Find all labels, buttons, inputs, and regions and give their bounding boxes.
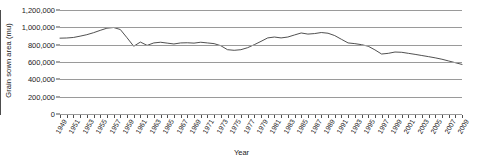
x-axis-tick bbox=[462, 115, 463, 118]
y-axis-tick bbox=[56, 62, 60, 63]
y-axis-tick-label: 1,200,000 bbox=[22, 6, 55, 15]
gridline bbox=[60, 97, 462, 98]
x-axis-tick bbox=[368, 115, 369, 118]
x-axis-tick bbox=[308, 115, 309, 118]
gridline bbox=[60, 62, 462, 63]
x-axis-tick bbox=[254, 115, 255, 118]
x-axis-tick bbox=[67, 115, 68, 118]
x-axis-tick bbox=[395, 115, 396, 118]
x-axis-tick bbox=[147, 115, 148, 118]
x-axis-tick bbox=[201, 115, 202, 118]
x-axis-tick bbox=[94, 115, 95, 118]
x-axis-tick bbox=[60, 115, 61, 118]
x-axis-tick bbox=[261, 115, 262, 118]
x-axis-tick bbox=[328, 115, 329, 118]
plot-area bbox=[60, 10, 462, 114]
x-axis-tick bbox=[87, 115, 88, 118]
x-axis-tick bbox=[449, 115, 450, 118]
x-axis-tick bbox=[382, 115, 383, 118]
x-axis-tick bbox=[429, 115, 430, 118]
x-axis-tick bbox=[455, 115, 456, 118]
y-axis-tick bbox=[56, 27, 60, 28]
x-axis-tick bbox=[107, 115, 108, 118]
series-polyline bbox=[60, 28, 462, 65]
x-axis-tick-labels: 1949195119531955195719591961196319651967… bbox=[60, 118, 462, 146]
x-axis-tick bbox=[355, 115, 356, 118]
x-axis-tick bbox=[362, 115, 363, 118]
x-axis-tick bbox=[321, 115, 322, 118]
x-axis-tick bbox=[388, 115, 389, 118]
x-axis-tick bbox=[174, 115, 175, 118]
x-axis-tick bbox=[442, 115, 443, 118]
grain-sown-area-line-chart: Grain sown area (mu) 1,200,0001,000,0008… bbox=[0, 0, 483, 161]
y-axis-tick bbox=[56, 96, 60, 97]
x-axis-title: Year bbox=[0, 148, 483, 157]
x-axis-tick bbox=[315, 115, 316, 118]
x-axis-tick bbox=[140, 115, 141, 118]
x-axis-tick bbox=[435, 115, 436, 118]
gridline bbox=[60, 45, 462, 46]
y-axis-tick bbox=[56, 79, 60, 80]
x-axis-tick bbox=[161, 115, 162, 118]
x-axis-tick bbox=[134, 115, 135, 118]
y-axis-tick bbox=[56, 44, 60, 45]
x-axis-tick bbox=[73, 115, 74, 118]
y-axis-tick-label: 600,000 bbox=[28, 58, 55, 67]
x-axis-tick bbox=[281, 115, 282, 118]
x-axis-tick bbox=[422, 115, 423, 118]
x-axis-tick bbox=[375, 115, 376, 118]
x-axis-tick bbox=[234, 115, 235, 118]
x-axis-tick bbox=[80, 115, 81, 118]
x-axis-tick bbox=[167, 115, 168, 118]
y-axis-tick-label: 400,000 bbox=[28, 75, 55, 84]
y-axis-tick-labels: 1,200,0001,000,000800,000600,000400,0002… bbox=[14, 0, 58, 120]
x-axis-tick bbox=[402, 115, 403, 118]
y-axis-line bbox=[0, 10, 1, 115]
gridline bbox=[60, 79, 462, 80]
y-axis-tick-label: 0 bbox=[51, 110, 55, 119]
x-axis-tick bbox=[415, 115, 416, 118]
x-axis-tick bbox=[268, 115, 269, 118]
x-axis-tick bbox=[288, 115, 289, 118]
x-axis-tick bbox=[214, 115, 215, 118]
x-axis-tick bbox=[187, 115, 188, 118]
x-axis-tick bbox=[248, 115, 249, 118]
x-axis-tick bbox=[228, 115, 229, 118]
x-axis-tick bbox=[127, 115, 128, 118]
x-axis-tick bbox=[207, 115, 208, 118]
y-axis-tick bbox=[56, 10, 60, 11]
gridline bbox=[60, 10, 462, 11]
gridline bbox=[60, 27, 462, 28]
x-axis-tick bbox=[348, 115, 349, 118]
x-axis-tick bbox=[194, 115, 195, 118]
y-axis-title-text: Grain sown area (mu) bbox=[4, 23, 13, 98]
x-axis-tick bbox=[408, 115, 409, 118]
y-axis-tick-label: 200,000 bbox=[28, 92, 55, 101]
x-axis-tick bbox=[295, 115, 296, 118]
x-axis-tick bbox=[301, 115, 302, 118]
x-axis-tick bbox=[120, 115, 121, 118]
y-axis-tick-label: 1,000,000 bbox=[22, 23, 55, 32]
x-axis-tick bbox=[100, 115, 101, 118]
x-axis-tick bbox=[154, 115, 155, 118]
x-axis-tick bbox=[335, 115, 336, 118]
x-axis-tick bbox=[241, 115, 242, 118]
x-axis-tick bbox=[181, 115, 182, 118]
x-axis-tick bbox=[221, 115, 222, 118]
x-axis-tick bbox=[341, 115, 342, 118]
y-axis-tick-label: 800,000 bbox=[28, 40, 55, 49]
x-axis-tick bbox=[274, 115, 275, 118]
x-axis-tick bbox=[114, 115, 115, 118]
